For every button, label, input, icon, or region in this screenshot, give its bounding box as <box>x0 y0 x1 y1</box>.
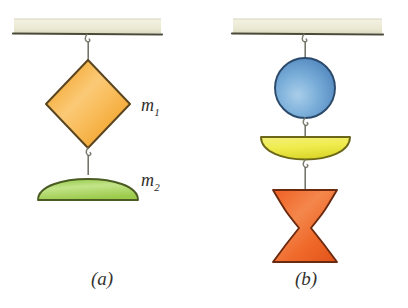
mass-m3-sphere <box>275 58 335 118</box>
mass-m5-hourglass <box>273 190 337 262</box>
hanging-masses-figure: m1 m2 (a) <box>0 0 408 308</box>
hook-ceiling-to-m3 <box>302 35 307 59</box>
mass-m1-diamond <box>46 60 130 148</box>
hook-m1-to-m2 <box>86 148 91 175</box>
mass-m2-dome <box>38 179 138 200</box>
panel-a-drawing <box>0 0 204 308</box>
panel-b: m3 m5 (b) <box>204 0 408 308</box>
mass-label-m2: m2 <box>141 170 160 193</box>
mass-m4-bowl <box>261 137 350 160</box>
panel-b-caption: (b) <box>204 268 408 290</box>
hook-ceiling-to-m1 <box>85 35 90 61</box>
ceiling-support-b <box>232 19 383 35</box>
panel-a: m1 m2 (a) <box>0 0 204 308</box>
ceiling-support-a <box>13 19 162 35</box>
hook-m4-to-m5 <box>303 160 308 190</box>
panel-a-caption: (a) <box>0 268 204 290</box>
hook-m3-to-m4 <box>303 118 308 137</box>
mass-label-m1: m1 <box>141 95 160 118</box>
panel-b-drawing <box>204 0 408 308</box>
